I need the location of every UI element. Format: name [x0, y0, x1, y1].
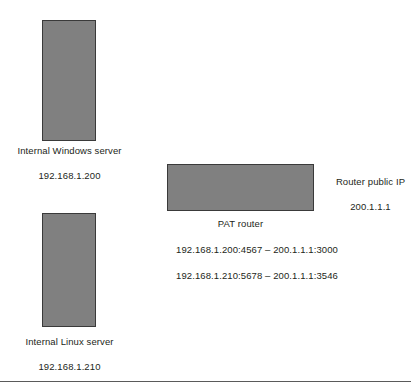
node-label-internal-linux-server: Internal Linux server	[0, 336, 139, 348]
router-public-ip-title: Router public IP	[330, 176, 411, 188]
node-ip-internal-linux-server: 192.168.1.210	[0, 361, 139, 373]
bottom-divider	[0, 381, 411, 382]
pat-mapping-row: 192.168.1.210:5678 – 200.1.1.1:3546	[167, 270, 347, 282]
node-label-internal-windows-server: Internal Windows server	[0, 145, 139, 157]
node-internal-linux-server	[42, 213, 96, 327]
node-label-pat-router: PAT router	[167, 218, 314, 230]
router-public-ip-value: 200.1.1.1	[330, 201, 411, 213]
pat-mapping-row: 192.168.1.200:4567 – 200.1.1.1:3000	[167, 244, 347, 256]
network-diagram: Internal Windows server 192.168.1.200 In…	[0, 0, 411, 390]
node-pat-router	[167, 164, 314, 211]
node-ip-internal-windows-server: 192.168.1.200	[0, 170, 139, 182]
node-internal-windows-server	[42, 20, 96, 141]
